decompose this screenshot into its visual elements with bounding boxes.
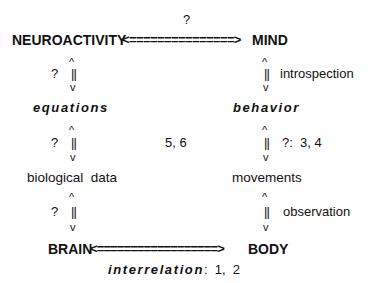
down-arrow-icon: v: [263, 222, 269, 233]
node-mind: MIND: [252, 33, 288, 47]
node-behavior: behavior: [233, 101, 300, 115]
caption-emphasis: interrelation: [108, 262, 204, 277]
bottom-caption: interrelation: 1, 2: [108, 263, 240, 277]
node-equations: equations: [33, 101, 109, 115]
down-arrow-icon: v: [70, 82, 76, 93]
node-movements: movements: [232, 171, 302, 185]
node-body: BODY: [248, 242, 288, 256]
double-bar-icon: ||: [71, 136, 76, 150]
top-question-mark: ?: [183, 13, 190, 27]
down-arrow-icon: v: [70, 222, 76, 233]
double-bar-icon: ||: [264, 67, 269, 81]
right-link1-label: introspection: [280, 67, 354, 81]
right-link2-label: ?: 3, 4: [282, 136, 322, 150]
node-neuroactivity: NEUROACTIVITY: [12, 33, 126, 47]
up-arrow-icon: ^: [69, 192, 74, 203]
right-link3-label: observation: [283, 205, 350, 219]
left-link3-label: ?: [51, 205, 58, 219]
double-bar-icon: ||: [264, 136, 269, 150]
top-double-arrow: <===============>: [122, 33, 241, 47]
double-bar-icon: ||: [71, 67, 76, 81]
left-link1-label: ?: [51, 67, 58, 81]
bottom-double-arrow: <==================>: [90, 242, 224, 256]
left-link2-label: ?: [51, 136, 58, 150]
up-arrow-icon: ^: [262, 192, 267, 203]
middle-reference-label: 5, 6: [165, 136, 187, 150]
double-bar-icon: ||: [71, 205, 76, 219]
down-arrow-icon: v: [263, 152, 269, 163]
node-biological-data: biological data: [27, 171, 117, 185]
node-brain: BRAIN: [48, 242, 92, 256]
caption-references: : 1, 2: [204, 262, 240, 277]
down-arrow-icon: v: [70, 152, 76, 163]
down-arrow-icon: v: [263, 82, 269, 93]
double-bar-icon: ||: [264, 205, 269, 219]
